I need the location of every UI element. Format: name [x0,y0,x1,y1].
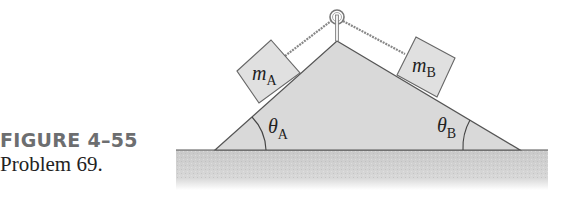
angle-a-symbol: θ [268,115,278,137]
block-b-subscript: B [426,65,435,80]
pulley-icon [330,10,344,41]
block-a-subscript: A [266,73,277,88]
angle-b-symbol: θ [437,114,447,136]
block-a-symbol: m [252,62,266,84]
ground [176,150,548,190]
wedge-diagram: mA mB θA θB [0,0,573,197]
angle-a-subscript: A [278,127,289,142]
angle-b-subscript: B [447,126,456,141]
block-b-symbol: m [412,54,426,76]
